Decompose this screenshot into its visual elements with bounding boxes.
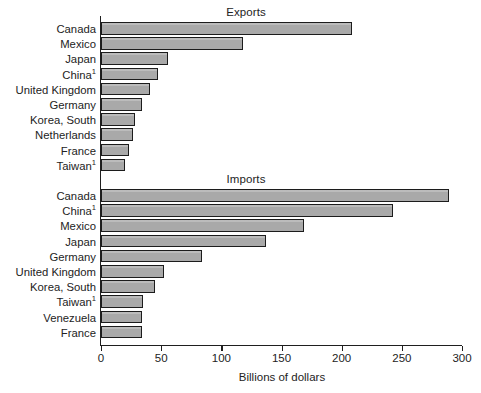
bar-row: Mexico: [0, 219, 481, 233]
bar: [101, 295, 143, 308]
bar: [101, 22, 352, 35]
bar: [101, 98, 142, 111]
x-tick-label: 50: [155, 352, 168, 364]
bar: [101, 144, 129, 157]
panel-title-exports: Exports: [101, 6, 391, 18]
x-tick: [462, 346, 463, 351]
bar-row: France: [0, 326, 481, 340]
x-tick: [342, 346, 343, 351]
bar: [101, 250, 202, 263]
x-tick-label: 250: [392, 352, 411, 364]
bar-row: Canada: [0, 189, 481, 203]
footnote-marker: 1: [92, 295, 96, 304]
bar: [101, 326, 142, 339]
panel-title-imports: Imports: [101, 173, 391, 185]
bar-row: United Kingdom: [0, 83, 481, 97]
category-label: Germany: [50, 250, 96, 264]
bar-row: Japan: [0, 235, 481, 249]
category-label: Taiwan1: [57, 295, 96, 309]
bar-chart-figure: Exports Imports 050100150200250300 Canad…: [0, 0, 481, 393]
bar: [101, 204, 393, 217]
category-label: China1: [62, 68, 96, 82]
category-label: Taiwan1: [57, 159, 96, 173]
bar: [101, 235, 266, 248]
bar-row: Mexico: [0, 37, 481, 51]
category-label: Canada: [56, 189, 96, 203]
bar: [101, 128, 133, 141]
x-tick-label: 300: [452, 352, 471, 364]
x-tick-label: 0: [98, 352, 104, 364]
x-tick: [101, 346, 102, 351]
category-label: Japan: [65, 235, 96, 249]
category-label: China1: [62, 204, 96, 218]
x-tick: [282, 346, 283, 351]
bar-row: Canada: [0, 22, 481, 36]
x-tick-label: 150: [272, 352, 291, 364]
category-label: France: [61, 326, 96, 340]
bar: [101, 311, 142, 324]
x-tick: [402, 346, 403, 351]
bar-row: France: [0, 144, 481, 158]
category-label: United Kingdom: [16, 265, 96, 279]
category-label: Venezuela: [43, 311, 96, 325]
x-tick: [161, 346, 162, 351]
bar-row: Korea, South: [0, 280, 481, 294]
category-label: United Kingdom: [16, 83, 96, 97]
category-label: Netherlands: [35, 128, 96, 142]
bar-row: Netherlands: [0, 128, 481, 142]
bar: [101, 83, 150, 96]
x-tick: [221, 346, 222, 351]
category-label: France: [61, 144, 96, 158]
bar: [101, 159, 125, 172]
footnote-marker: 1: [92, 67, 96, 76]
bar-row: Venezuela: [0, 311, 481, 325]
bar-row: United Kingdom: [0, 265, 481, 279]
category-label: Mexico: [60, 37, 96, 51]
category-label: Korea, South: [30, 280, 96, 294]
x-tick-label: 100: [212, 352, 231, 364]
bar: [101, 68, 158, 81]
category-label: Mexico: [60, 219, 96, 233]
bar-row: China1: [0, 204, 481, 218]
bar: [101, 37, 243, 50]
bar: [101, 52, 168, 65]
bar: [101, 265, 164, 278]
bar-row: Korea, South: [0, 113, 481, 127]
bar-row: Germany: [0, 250, 481, 264]
category-label: Japan: [65, 52, 96, 66]
bar: [101, 280, 155, 293]
footnote-marker: 1: [92, 158, 96, 167]
bar-row: Taiwan1: [0, 295, 481, 309]
bar-row: Taiwan1: [0, 159, 481, 173]
bar-row: Germany: [0, 98, 481, 112]
x-axis-title: Billions of dollars: [101, 371, 463, 383]
category-label: Korea, South: [30, 113, 96, 127]
category-label: Canada: [56, 22, 96, 36]
bar: [101, 189, 449, 202]
bar: [101, 113, 135, 126]
bar-row: Japan: [0, 52, 481, 66]
category-label: Germany: [50, 98, 96, 112]
bar-row: China1: [0, 68, 481, 82]
footnote-marker: 1: [92, 203, 96, 212]
bar: [101, 219, 304, 232]
x-tick-label: 200: [332, 352, 351, 364]
